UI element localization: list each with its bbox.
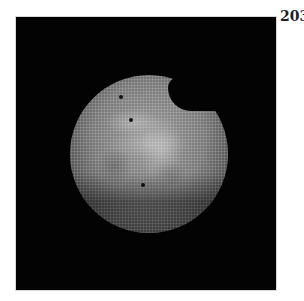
marker-dot [129,118,133,122]
micrograph-panel [16,17,276,290]
disk-notch [168,77,238,111]
panel-label: 203 [280,8,304,24]
marker-dot [141,183,145,187]
marker-dot [119,95,123,99]
